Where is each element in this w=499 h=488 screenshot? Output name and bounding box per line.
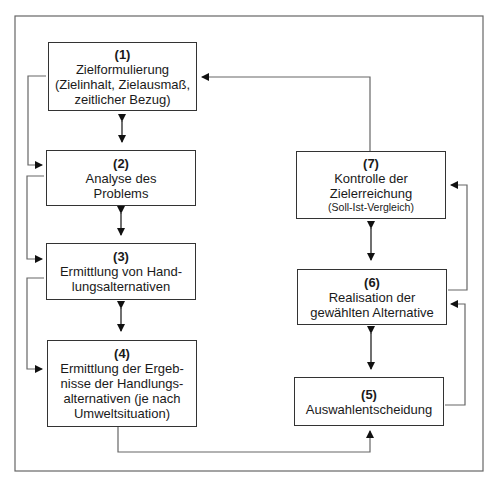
step-note: (Soll-Ist-Vergleich) — [328, 201, 414, 214]
step-5-auswahlentscheidung: (5) Auswahlentscheidung — [294, 377, 444, 426]
step-4-ergebnisse: (4) Ermittlung der Ergeb- nisse der Hand… — [47, 340, 197, 427]
step-7-kontrolle: (7) Kontrolle der Zielerreichung (Soll-I… — [296, 151, 446, 219]
step-6-realisation: (6) Realisation der gewählten Alternativ… — [297, 269, 447, 325]
step-title: Zielformulierung — [76, 62, 169, 77]
step-number: (6) — [364, 275, 380, 290]
step-title: Zielerreichung — [330, 186, 412, 201]
step-title: Problems — [94, 186, 149, 201]
step-detail: zeitlicher Bezug) — [74, 92, 170, 107]
step-title: alternativen (je nach — [63, 391, 180, 406]
step-title: Realisation der — [329, 290, 416, 305]
step-detail: (Zielinhalt, Zielausmaß, — [55, 77, 190, 92]
step-number: (4) — [114, 346, 130, 361]
step-number: (7) — [363, 156, 379, 171]
step-title: Umweltsituation) — [74, 406, 170, 421]
step-number: (2) — [113, 156, 129, 171]
step-title: nisse der Handlungs- — [61, 376, 184, 391]
step-number: (1) — [115, 47, 131, 62]
step-title: Ermittlung von Hand- — [60, 264, 182, 279]
step-title: Analyse des — [86, 171, 157, 186]
step-3-handlungsalternativen: (3) Ermittlung von Hand- lungsalternativ… — [46, 243, 196, 300]
step-number: (3) — [113, 249, 129, 264]
step-title: Kontrolle der — [334, 171, 408, 186]
step-title: lungsalternativen — [72, 279, 170, 294]
step-title: Ermittlung der Ergeb- — [60, 361, 184, 376]
step-title: Auswahlentscheidung — [306, 402, 432, 417]
step-2-analyse: (2) Analyse des Problems — [46, 150, 196, 206]
step-title: gewählten Alternative — [310, 305, 434, 320]
step-number: (5) — [361, 387, 377, 402]
step-1-zielformulierung: (1) Zielformulierung (Zielinhalt, Zielau… — [48, 42, 197, 111]
